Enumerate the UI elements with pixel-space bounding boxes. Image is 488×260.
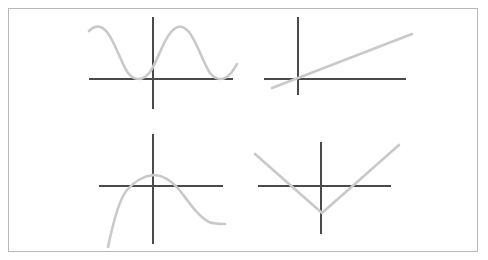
curve-periodic-wave (89, 27, 237, 79)
function-graph-sheet (8, 8, 478, 252)
plot-periodic-wave-tangent-to-x-axis (89, 17, 237, 109)
plot-absolute-value-v-shape (255, 142, 399, 234)
plot-straight-line-positive-slope (264, 17, 412, 95)
curve-v-shape (255, 145, 399, 213)
plot-cubic-with-local-maximum (99, 134, 225, 247)
four-plot-grid (9, 9, 479, 253)
